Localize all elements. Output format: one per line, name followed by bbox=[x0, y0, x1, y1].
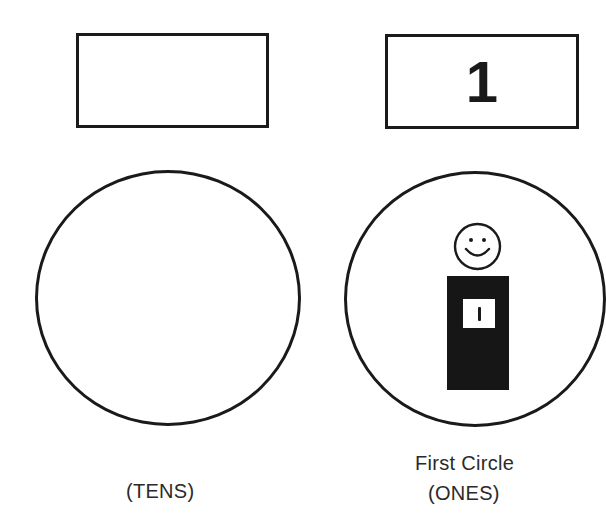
ones-digit-box: 1 bbox=[385, 34, 579, 129]
ones-digit-value: 1 bbox=[466, 53, 498, 111]
smiley-face-icon bbox=[453, 222, 502, 271]
tens-caption: (TENS) bbox=[126, 480, 194, 502]
tens-digit-box bbox=[76, 33, 269, 128]
ones-caption: (ONES) bbox=[428, 482, 500, 504]
one-mark-icon bbox=[478, 307, 481, 321]
first-circle-caption: First Circle bbox=[415, 452, 514, 474]
one-counter-tag bbox=[463, 299, 495, 328]
tens-circle bbox=[35, 170, 301, 426]
person-figure-body bbox=[447, 276, 509, 390]
